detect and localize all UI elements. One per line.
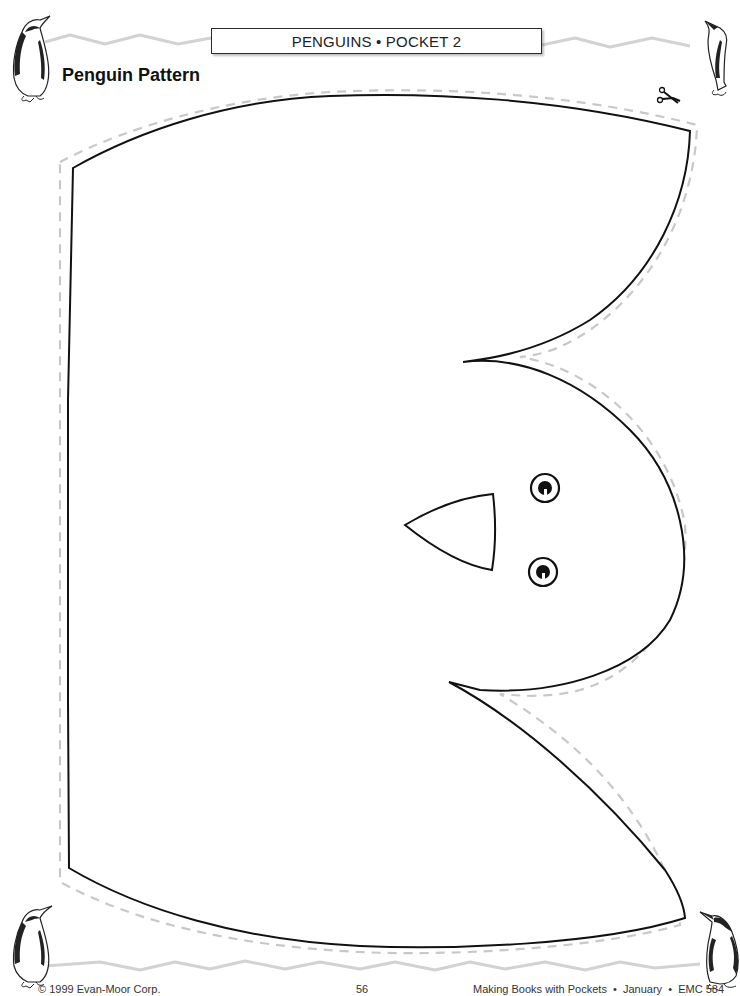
page-title: Penguin Pattern (62, 65, 200, 86)
footer-page-number: 56 (356, 983, 368, 995)
section-header-label: PENGUINS • POCKET 2 (292, 33, 462, 50)
penguin-icon-bottom-right (700, 912, 738, 990)
eye-bottom (529, 558, 557, 586)
zigzag-border-bottom (45, 961, 700, 970)
penguin-icon-top-left (13, 16, 50, 102)
scissors-icon (658, 88, 681, 104)
pattern-outline (68, 95, 690, 947)
footer-book-info: Making Books with Pockets • January • EM… (473, 983, 724, 995)
penguin-icon-top-right (705, 21, 727, 95)
page-artwork (0, 0, 740, 996)
footer-copyright: © 1999 Evan-Moor Corp. (38, 983, 160, 995)
penguin-icon-bottom-left (13, 906, 52, 988)
eye-top (531, 474, 559, 502)
section-header: PENGUINS • POCKET 2 (211, 28, 542, 54)
